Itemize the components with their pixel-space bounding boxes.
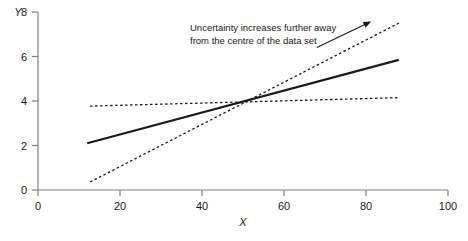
x-tick-label-40: 40 <box>196 200 208 212</box>
y-axis-ticks <box>32 12 38 190</box>
y-tick-label-2: 2 <box>21 140 27 152</box>
annotation-line-1: Uncertainty increases further away <box>190 22 337 33</box>
y-axis-title: Y <box>14 6 22 18</box>
y-tick-label-4: 4 <box>21 95 27 107</box>
x-axis-title: X <box>238 216 247 228</box>
lower-confidence-limit-line <box>90 23 399 182</box>
y-tick-label-6: 6 <box>21 51 27 63</box>
x-tick-label-60: 60 <box>278 200 290 212</box>
y-tick-label-0: 0 <box>21 184 27 196</box>
x-tick-label-100: 100 <box>439 200 457 212</box>
x-tick-label-0: 0 <box>35 200 41 212</box>
x-tick-label-20: 20 <box>114 200 126 212</box>
chart-canvas: 0 2 4 6 8 0 20 40 60 80 100 Y X Uncertai… <box>0 0 468 241</box>
data-series-group <box>87 23 399 182</box>
x-tick-label-80: 80 <box>360 200 372 212</box>
annotation-line-2: from the centre of the data set <box>190 35 317 46</box>
regression-uncertainty-chart: 0 2 4 6 8 0 20 40 60 80 100 Y X Uncertai… <box>0 0 468 241</box>
y-tick-label-8: 8 <box>21 6 27 18</box>
regression-line <box>87 60 399 143</box>
x-axis-ticks <box>38 190 448 196</box>
